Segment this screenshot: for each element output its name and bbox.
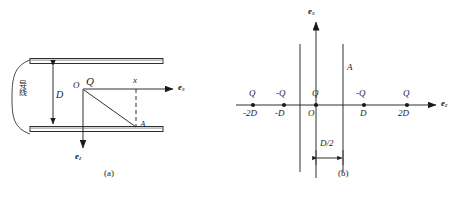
point-A-label-a: A <box>140 120 146 129</box>
charge-position: 2D <box>398 109 409 118</box>
wire-label: 导线 <box>17 80 25 96</box>
gap-label: D/2 <box>320 139 334 148</box>
axis-ez-label-a: ez <box>75 152 81 161</box>
wire-arc <box>12 60 30 134</box>
charge-value: -Q <box>276 89 286 98</box>
charge-value: Q <box>249 89 256 98</box>
axis-ex-label-b: ex <box>308 7 315 16</box>
charge-value: Q <box>403 89 410 98</box>
panel-b-graphics <box>236 22 436 178</box>
axis-ez-subscript-b: z <box>445 102 447 108</box>
axis-ex-subscript-b: x <box>312 10 315 16</box>
top-plate <box>30 59 163 64</box>
origin-label-a: O <box>73 81 80 90</box>
charge-value: -Q <box>356 89 366 98</box>
axis-ex-label-a: ex <box>178 83 185 92</box>
axis-ex-subscript-a: x <box>182 86 185 92</box>
figure-canvas <box>0 0 465 200</box>
charge-dot <box>251 103 255 107</box>
caption-a: (a) <box>104 168 114 178</box>
charge-dot <box>282 103 286 107</box>
charge-position: D <box>360 109 367 118</box>
charge-dot <box>362 103 366 107</box>
source-charge-label-a: Q <box>86 76 94 87</box>
charge-dot <box>314 103 318 107</box>
observation-point-label-b: A <box>347 63 353 72</box>
charge-position: -2D <box>243 109 257 118</box>
axis-ez-label-b: ez <box>441 99 447 108</box>
charge-dot <box>405 103 409 107</box>
origin-label-b: O <box>308 109 315 118</box>
panel-a-graphics <box>12 59 173 149</box>
ray-origin-to-A <box>84 90 136 127</box>
charge-position: -D <box>275 109 285 118</box>
distance-x-label: x <box>133 76 137 85</box>
physics-figure: 导线 D O Q x A ex ez (a) ex ez O A D/2 Q -… <box>0 0 465 200</box>
axis-ez-subscript-a: z <box>79 155 81 161</box>
charge-value: Q <box>312 89 319 98</box>
caption-b: (b) <box>338 168 349 178</box>
plate-spacing-label: D <box>56 90 63 100</box>
